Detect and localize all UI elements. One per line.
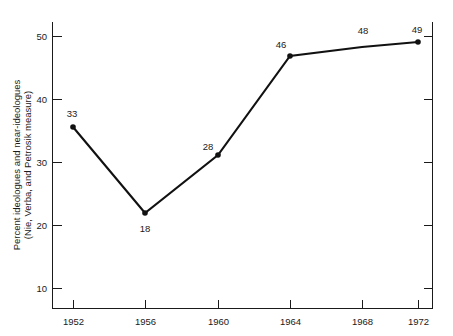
data-point-1972	[415, 39, 421, 45]
y-tick-label-30: 30	[36, 157, 47, 168]
data-point-1964	[287, 53, 293, 59]
y-tick-label-50: 50	[36, 31, 47, 42]
data-point-1960	[215, 152, 221, 158]
y-axis-title: Percent ideologues and near-ideologues (…	[11, 79, 33, 250]
data-point-label-1972: 49	[412, 24, 423, 35]
data-point-label-1952: 33	[67, 108, 78, 119]
line-chart-plot: 50 40 30 20 10 1952 1956 1960 1964 1968 …	[0, 0, 453, 336]
x-axis-ticks	[74, 300, 419, 309]
data-point-label-1956: 18	[140, 223, 151, 234]
x-tick-label-1972: 1972	[408, 316, 429, 327]
y-axis-title-line-1: Percent ideologues and near-ideologues	[11, 79, 22, 250]
x-tick-label-1960: 1960	[208, 316, 229, 327]
x-tick-label-1968: 1968	[352, 316, 373, 327]
data-point-label-1960: 28	[203, 141, 214, 152]
x-tick-label-1956: 1956	[135, 316, 156, 327]
chart-figure: 50 40 30 20 10 1952 1956 1960 1964 1968 …	[0, 0, 453, 336]
y-axis-title-line-2: (Nie, Verba, and Petrosik measure)	[22, 91, 33, 239]
data-markers	[70, 39, 421, 216]
y-axis-ticks-left	[53, 37, 62, 289]
x-axis-tick-labels: 1952 1956 1960 1964 1968 1972	[63, 316, 429, 327]
data-point-1956	[142, 210, 148, 216]
data-point-labels: 33 18 28 46 48 49	[67, 24, 423, 234]
x-tick-label-1952: 1952	[63, 316, 84, 327]
x-tick-label-1964: 1964	[280, 316, 301, 327]
y-tick-label-10: 10	[36, 283, 47, 294]
y-tick-label-20: 20	[36, 220, 47, 231]
data-point-label-1968: 48	[358, 25, 369, 36]
data-series-line	[73, 42, 418, 213]
y-tick-label-40: 40	[36, 94, 47, 105]
y-axis-tick-labels: 50 40 30 20 10	[36, 31, 47, 294]
data-point-1952	[70, 124, 76, 130]
data-point-label-1964: 46	[276, 39, 287, 50]
y-axis-ticks-right	[424, 37, 433, 289]
